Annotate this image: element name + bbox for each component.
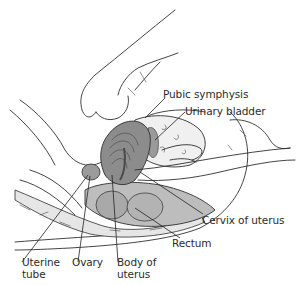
ovary [82,164,100,180]
label-uterine-tube-line2: tube [22,268,60,280]
abdominal-hand [81,10,178,120]
label-body-of-uterus-line1: Body of [117,256,156,268]
label-body-of-uterus: Body of uterus [117,256,156,280]
label-cervix-of-uterus: Cervix of uterus [202,214,284,226]
label-rectum: Rectum [172,237,211,249]
pelvic-exam-illustration [0,0,306,285]
label-urinary-bladder: Urinary bladder [185,105,266,117]
label-uterine-tube-line1: Uterine [22,256,60,268]
label-ovary: Ovary [72,256,103,268]
uterus [101,121,151,184]
label-uterine-tube: Uterine tube [22,256,60,280]
label-pubic-symphysis: Pubic symphysis [163,88,248,100]
label-body-of-uterus-line2: uterus [117,268,156,280]
rectum [85,182,215,226]
